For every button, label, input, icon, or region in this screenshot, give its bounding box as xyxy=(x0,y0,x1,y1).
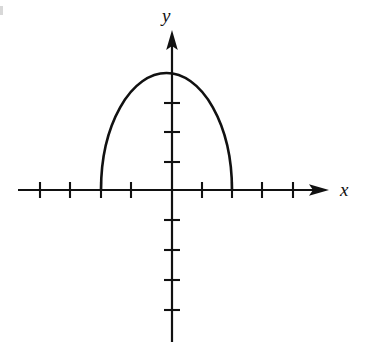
graph-figure: y x xyxy=(0,0,365,357)
y-axis-label: y xyxy=(162,6,170,25)
coordinate-plane xyxy=(0,0,365,357)
x-axis-label: x xyxy=(340,180,348,199)
